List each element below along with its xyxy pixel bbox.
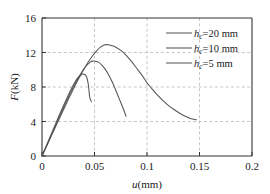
tick-label-y: 16	[25, 12, 37, 24]
x-axis-tick-labels: 00.050.10.150.2	[39, 160, 259, 172]
tick-label-y: 4	[31, 116, 37, 128]
line-chart: 00.050.10.150.2 0481216 u(mm) F(kN) hc=2…	[0, 0, 270, 194]
tick-label-x: 0.15	[190, 160, 210, 172]
tick-label-x: 0.1	[140, 160, 154, 172]
tick-label-x: 0.05	[85, 160, 105, 172]
tick-label-x: 0	[39, 160, 45, 172]
tick-label-y: 8	[31, 81, 37, 93]
figure-container: 00.050.10.150.2 0481216 u(mm) F(kN) hc=2…	[0, 0, 270, 194]
x-axis-title: u(mm)	[132, 178, 162, 191]
tick-label-x: 0.2	[245, 160, 259, 172]
tick-label-y: 12	[25, 47, 36, 59]
y-axis-title: F(kN)	[8, 73, 21, 102]
y-axis-tick-labels: 0481216	[25, 12, 37, 162]
tick-label-y: 0	[31, 150, 37, 162]
